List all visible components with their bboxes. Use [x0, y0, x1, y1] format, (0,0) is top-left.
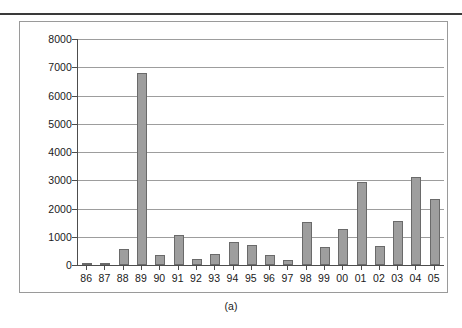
x-axis-tick-slot [315, 266, 333, 270]
bar-slot [352, 39, 370, 265]
x-axis-tick-slot [370, 266, 388, 270]
bar-91 [174, 235, 184, 265]
x-axis-tick-marks [77, 266, 443, 270]
bar-slot [224, 39, 242, 265]
x-axis-tick-slot [242, 266, 260, 270]
bar-slot [279, 39, 297, 265]
x-axis-tick-slot [278, 266, 296, 270]
bar-95 [247, 245, 257, 265]
x-axis-tick-mark [251, 266, 252, 270]
x-axis-tick-label: 94 [223, 272, 241, 288]
y-axis-tick-label: 2000 [48, 203, 72, 215]
bar-slot [389, 39, 407, 265]
bar-slot [133, 39, 151, 265]
bar-99 [320, 247, 330, 265]
bar-slot [426, 39, 444, 265]
bar-87 [100, 263, 110, 265]
x-axis-tick-slot [425, 266, 443, 270]
chart-plot-wrapper: 010002000300040005000600070008000 868788… [20, 22, 447, 292]
bar-01 [357, 182, 367, 265]
bar-slot [115, 39, 133, 265]
x-axis-tick-label: 88 [114, 272, 132, 288]
bar-slot [151, 39, 169, 265]
x-axis-tick-mark [86, 266, 87, 270]
bar-98 [302, 222, 312, 265]
x-axis-tick-label: 03 [388, 272, 406, 288]
bar-slot [371, 39, 389, 265]
x-axis-tick-label: 98 [297, 272, 315, 288]
bar-slot [298, 39, 316, 265]
bar-slot [96, 39, 114, 265]
x-axis-tick-label: 02 [370, 272, 388, 288]
bar-97 [283, 260, 293, 265]
x-axis-tick-slot [223, 266, 241, 270]
y-axis-tick-label: 8000 [48, 33, 72, 45]
bar-slot [243, 39, 261, 265]
x-axis-tick-slot [297, 266, 315, 270]
x-axis-tick-slot [132, 266, 150, 270]
x-axis-tick-mark [104, 266, 105, 270]
x-axis-tick-label: 91 [168, 272, 186, 288]
bar-slot [407, 39, 425, 265]
bar-series [78, 39, 444, 265]
x-axis-tick-slot [388, 266, 406, 270]
figure-caption: (a) [0, 300, 462, 312]
bar-89 [137, 73, 147, 265]
bar-88 [119, 249, 129, 265]
x-axis-tick-slot [150, 266, 168, 270]
x-axis-tick-slot [351, 266, 369, 270]
x-axis-tick-mark [214, 266, 215, 270]
x-axis-tick-mark [434, 266, 435, 270]
y-axis-tick-label: 7000 [48, 61, 72, 73]
x-axis-tick-slot [77, 266, 95, 270]
x-axis-tick-label: 86 [77, 272, 95, 288]
x-axis-tick-label: 90 [150, 272, 168, 288]
x-axis-tick-slot [187, 266, 205, 270]
x-axis-tick-slot [114, 266, 132, 270]
x-axis-tick-slot [168, 266, 186, 270]
x-axis-tick-label: 89 [132, 272, 150, 288]
x-axis-tick-mark [287, 266, 288, 270]
x-axis-tick-mark [397, 266, 398, 270]
bar-90 [155, 255, 165, 265]
x-axis-tick-mark [141, 266, 142, 270]
plot-area [77, 39, 444, 266]
x-axis-tick-mark [159, 266, 160, 270]
x-axis-tick-label: 92 [187, 272, 205, 288]
x-axis-tick-mark [379, 266, 380, 270]
chart-frame: 010002000300040005000600070008000 868788… [19, 21, 448, 293]
bar-slot [261, 39, 279, 265]
x-axis-tick-slot [260, 266, 278, 270]
page-top-rule [0, 13, 462, 15]
x-axis-tick-mark [233, 266, 234, 270]
bar-93 [210, 254, 220, 265]
x-axis-tick-mark [361, 266, 362, 270]
x-axis-tick-slot [333, 266, 351, 270]
x-axis-tick-labels: 8687888990919293949596979899000102030405 [77, 272, 443, 288]
bar-slot [188, 39, 206, 265]
bar-03 [393, 221, 403, 265]
x-axis-tick-label: 95 [242, 272, 260, 288]
x-axis-tick-mark [415, 266, 416, 270]
bar-86 [82, 263, 92, 265]
y-axis-tick-label: 4000 [48, 146, 72, 158]
bar-slot [169, 39, 187, 265]
y-axis-tick-label: 5000 [48, 118, 72, 130]
bar-94 [229, 242, 239, 265]
y-axis-tick-label: 3000 [48, 174, 72, 186]
bar-slot [78, 39, 96, 265]
y-axis-tick-label: 1000 [48, 231, 72, 243]
bar-02 [375, 246, 385, 265]
x-axis-tick-label: 99 [315, 272, 333, 288]
bar-04 [411, 177, 421, 265]
bar-slot [316, 39, 334, 265]
bar-05 [430, 199, 440, 265]
bar-slot [334, 39, 352, 265]
x-axis-tick-mark [342, 266, 343, 270]
x-axis-tick-label: 96 [260, 272, 278, 288]
bar-00 [338, 229, 348, 265]
y-axis-tick-labels: 010002000300040005000600070008000 [28, 39, 72, 265]
x-axis-tick-label: 87 [95, 272, 113, 288]
x-axis-tick-label: 01 [351, 272, 369, 288]
x-axis-tick-mark [123, 266, 124, 270]
